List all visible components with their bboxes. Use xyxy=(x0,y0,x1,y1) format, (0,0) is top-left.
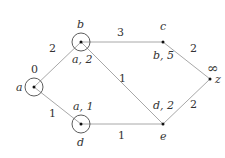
node-a xyxy=(33,86,36,89)
weight-b-e: 1 xyxy=(119,72,126,85)
node-c-name: c xyxy=(160,20,166,33)
node-d xyxy=(80,123,83,126)
node-c-label: b, 5 xyxy=(153,49,174,62)
node-d-label: a, 1 xyxy=(73,100,94,113)
node-b-name: b xyxy=(77,18,84,31)
node-e-label: d, 2 xyxy=(153,99,174,112)
weight-a-d: 1 xyxy=(49,107,56,120)
weight-c-z: 2 xyxy=(190,42,197,55)
node-a-name: a xyxy=(16,81,23,94)
weight-a-b: 2 xyxy=(49,42,56,55)
node-c xyxy=(162,41,165,44)
node-e xyxy=(162,123,165,126)
graph-diagram: 2 1 3 1 1 2 2 a 0 b a, 2 c b, 5 z ∞ d a,… xyxy=(0,0,225,158)
node-a-distance: 0 xyxy=(31,63,38,76)
weight-e-z: 2 xyxy=(190,98,197,111)
node-z xyxy=(209,78,212,81)
node-b-label: a, 2 xyxy=(72,53,93,66)
weight-d-e: 1 xyxy=(118,129,125,142)
weight-b-c: 3 xyxy=(117,26,124,39)
node-d-name: d xyxy=(77,136,84,149)
node-e-name: e xyxy=(160,130,167,143)
node-z-distance: ∞ xyxy=(207,60,219,76)
node-b xyxy=(80,41,83,44)
